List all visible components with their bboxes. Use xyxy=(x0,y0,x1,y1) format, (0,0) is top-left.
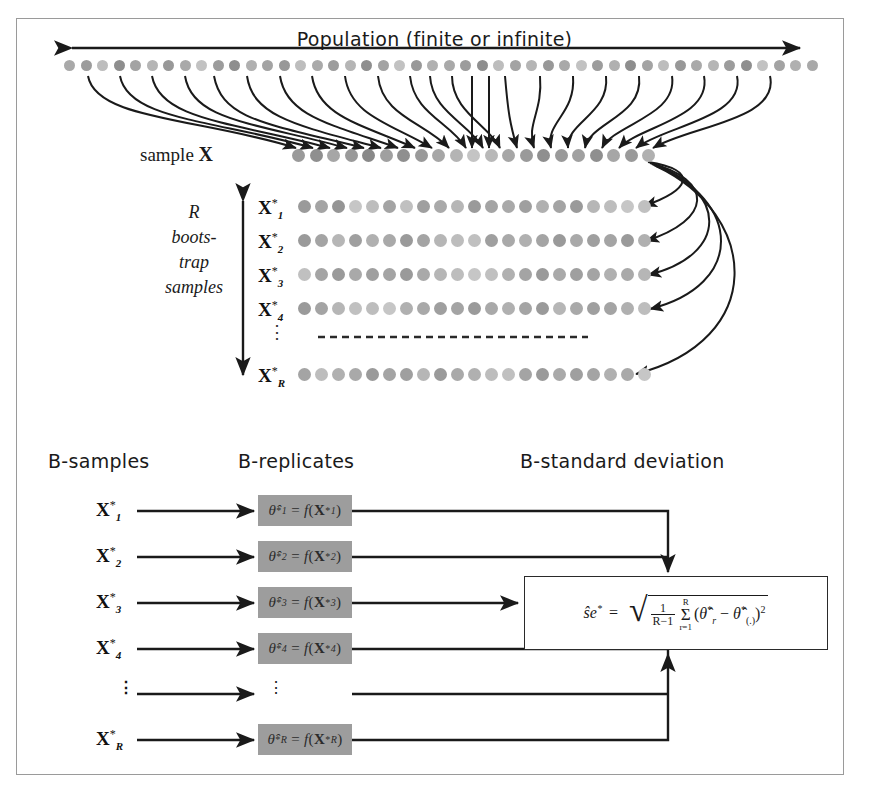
dot xyxy=(397,149,410,162)
dot xyxy=(97,60,108,71)
dot xyxy=(468,268,481,281)
dot xyxy=(526,60,537,71)
dot xyxy=(741,60,752,71)
dot xyxy=(621,302,634,315)
dot xyxy=(434,302,447,315)
sum-lower-limit: r=1 xyxy=(679,623,692,632)
dot xyxy=(520,149,533,162)
sample-label-sub: 2 xyxy=(116,557,122,569)
dot xyxy=(451,302,464,315)
term-theta-r: θ̂ xyxy=(699,605,707,622)
dot xyxy=(450,149,463,162)
dot xyxy=(570,368,583,381)
dot xyxy=(298,234,311,247)
dot xyxy=(332,302,345,315)
sample-label-sup: * xyxy=(110,544,116,558)
dot xyxy=(757,60,768,71)
dot xyxy=(451,200,464,213)
dot xyxy=(485,302,498,315)
row-label-sub: R xyxy=(278,377,285,389)
dot xyxy=(114,60,125,71)
row-label-sup: * xyxy=(272,230,278,244)
dot xyxy=(400,200,413,213)
sample-label-symbol: X xyxy=(199,143,213,165)
replicate-close: ) xyxy=(336,594,341,611)
dot xyxy=(587,200,600,213)
dot xyxy=(553,200,566,213)
term-theta-dot: θ̂ xyxy=(733,605,741,622)
dot xyxy=(383,234,396,247)
dot xyxy=(378,60,389,71)
lower-sample-label: X*1 xyxy=(96,498,121,523)
dot xyxy=(349,268,362,281)
dot xyxy=(315,268,328,281)
lower-sample-label: X*2 xyxy=(96,544,121,569)
replicate-x: X xyxy=(314,548,325,565)
lower-sample-label: X*R xyxy=(96,727,123,752)
dot xyxy=(366,302,379,315)
row-label-sub: 3 xyxy=(278,277,284,289)
bootstrap-row-label-R: X*R xyxy=(258,364,285,389)
bootstrap-label-line-3: samples xyxy=(148,275,240,300)
dot xyxy=(451,268,464,281)
dot xyxy=(604,302,617,315)
header-b-replicates: B-replicates xyxy=(238,450,354,472)
sample-label-sup: * xyxy=(110,636,116,650)
bootstrap-block-label: R boots- trap samples xyxy=(148,200,240,300)
dot xyxy=(332,368,345,381)
dot xyxy=(675,60,686,71)
dot xyxy=(485,234,498,247)
dot xyxy=(553,368,566,381)
dot xyxy=(587,268,600,281)
dot xyxy=(196,60,207,71)
dot xyxy=(621,268,634,281)
dot xyxy=(315,200,328,213)
dot xyxy=(604,268,617,281)
dot xyxy=(400,268,413,281)
dot xyxy=(790,60,801,71)
population-title: Population (finite or infinite) xyxy=(0,28,869,50)
dot xyxy=(383,368,396,381)
se-radical: √ 1 R−1 R Σ r=1 (θ̂*r−θ̂*(.))2 xyxy=(629,595,769,632)
dot xyxy=(434,368,447,381)
replicate-box: θ̂*3=f(X*3) xyxy=(258,587,352,618)
dot xyxy=(638,200,651,213)
lower-row-ellipsis-center: ⋮ xyxy=(268,678,284,697)
dot xyxy=(362,149,375,162)
dot xyxy=(349,368,362,381)
dot xyxy=(380,149,393,162)
bootstrap-dot-row-R xyxy=(298,368,655,381)
dot xyxy=(621,200,634,213)
dot xyxy=(555,149,568,162)
lower-sample-label: X*4 xyxy=(96,636,121,661)
replicate-equals: = xyxy=(291,640,300,657)
sample-label-text: sample xyxy=(140,144,199,165)
dot xyxy=(345,60,356,71)
se-formula-box: ŝe* = √ 1 R−1 R Σ r=1 (θ̂*r−θ̂*(.))2 xyxy=(524,576,828,650)
dot xyxy=(417,268,430,281)
dot xyxy=(642,149,655,162)
dot xyxy=(543,60,554,71)
dot xyxy=(691,60,702,71)
bootstrap-label-line-1: boots- xyxy=(148,225,240,250)
dot xyxy=(559,60,570,71)
dot xyxy=(638,268,651,281)
term-theta-r-sub: r xyxy=(712,614,716,625)
dot xyxy=(774,60,785,71)
dot xyxy=(485,149,498,162)
replicate-equals: = xyxy=(291,594,300,611)
dot xyxy=(576,60,587,71)
bootstrap-diagram-figure: Population (finite or infinite) sample X… xyxy=(0,0,869,802)
dot xyxy=(332,234,345,247)
dot xyxy=(417,234,430,247)
se-equals: = xyxy=(609,604,618,622)
dot xyxy=(502,149,515,162)
dot xyxy=(570,302,583,315)
dot xyxy=(332,268,345,281)
dot xyxy=(485,268,498,281)
lower-row-ellipsis-left: ⋮ xyxy=(118,678,134,697)
bootstrap-dot-row xyxy=(298,200,655,213)
sample-label-base: X xyxy=(96,637,110,658)
replicate-box: θ̂*1=f(X*1) xyxy=(258,495,352,526)
row-label-sup: * xyxy=(272,298,278,312)
